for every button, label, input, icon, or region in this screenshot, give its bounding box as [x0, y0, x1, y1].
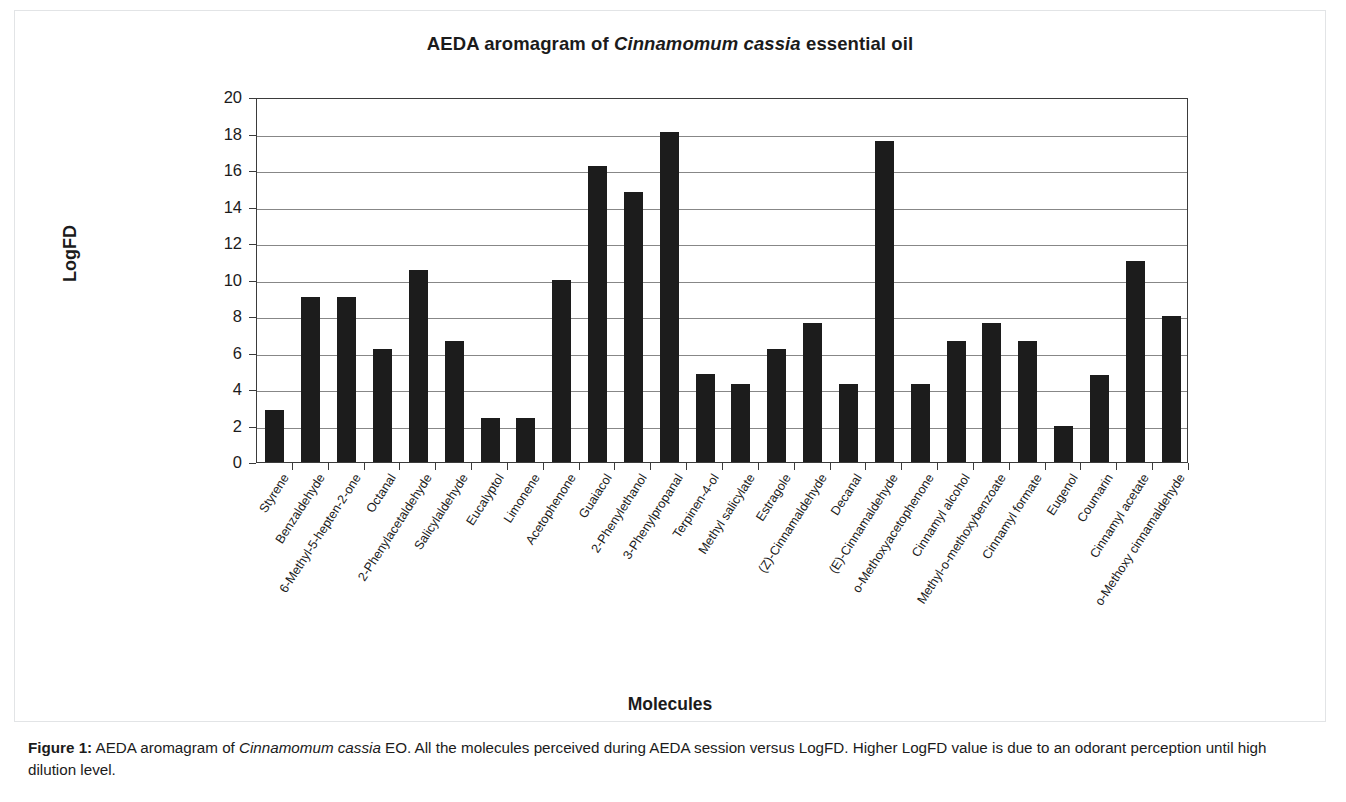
bar	[301, 297, 320, 462]
x-tick-mark	[435, 463, 436, 470]
x-tick-label: o-Methoxyacetophenone	[926, 472, 937, 479]
x-tick-mark	[579, 463, 580, 470]
bar	[552, 280, 571, 463]
x-tick-label: Cinnamyl formate	[1034, 472, 1045, 479]
y-tick-label: 18	[202, 126, 242, 143]
x-tick-mark	[1080, 463, 1081, 470]
x-tick-label: (Z)-Cinnamaldehyde	[819, 472, 830, 479]
x-tick-label: Coumarin	[1105, 472, 1116, 479]
bar	[445, 341, 464, 462]
x-tick-label: (E)-Cinnamaldehyde	[890, 472, 901, 479]
y-tick-mark	[249, 317, 256, 318]
bar	[911, 384, 930, 462]
plot-area	[256, 98, 1188, 463]
chart-title-post: essential oil	[801, 33, 913, 54]
bar	[265, 410, 284, 462]
x-tick-label: Decanal	[854, 472, 865, 479]
gridline	[257, 318, 1187, 319]
x-tick-label-text: Guaiacol	[576, 472, 614, 521]
y-tick-mark	[249, 427, 256, 428]
y-tick-mark	[249, 244, 256, 245]
bar	[1126, 261, 1145, 462]
x-tick-label-text: (Z)-Cinnamaldehyde	[756, 472, 830, 575]
x-tick-mark	[1152, 463, 1153, 470]
figure-frame: AEDA aromagram of Cinnamomum cassia esse…	[14, 10, 1326, 722]
bar	[803, 323, 822, 462]
x-tick-label: Salicylaldehyde	[460, 472, 471, 479]
chart-title: AEDA aromagram of Cinnamomum cassia esse…	[15, 33, 1325, 55]
x-tick-label-text: Decanal	[829, 472, 865, 518]
x-tick-label: Estragole	[783, 472, 794, 479]
bar	[731, 384, 750, 462]
x-tick-mark	[722, 463, 723, 470]
x-tick-mark	[830, 463, 831, 470]
x-tick-label-text: Octanal	[365, 472, 400, 516]
gridline	[257, 355, 1187, 356]
y-tick-mark	[249, 281, 256, 282]
x-tick-mark	[364, 463, 365, 470]
bar	[337, 297, 356, 462]
x-tick-mark	[1188, 463, 1189, 470]
x-tick-label: 2-Phenylethanol	[639, 472, 650, 479]
y-axis-title: LogFD	[60, 194, 81, 314]
y-tick-label: 4	[202, 381, 242, 398]
gridline	[257, 428, 1187, 429]
bar	[660, 132, 679, 462]
bar	[481, 418, 500, 462]
x-tick-label: Methyl-o-methoxybenzoate	[998, 472, 1009, 479]
x-tick-label: o-Methoxy cinnamaldehyde	[1177, 472, 1188, 479]
x-tick-mark	[794, 463, 795, 470]
x-tick-label-text: Styrene	[257, 472, 292, 516]
x-tick-mark	[614, 463, 615, 470]
bar	[1162, 316, 1181, 462]
x-tick-mark	[1116, 463, 1117, 470]
gridline	[257, 209, 1187, 210]
bar	[409, 270, 428, 462]
gridline	[257, 245, 1187, 246]
y-tick-label: 12	[202, 235, 242, 252]
x-tick-mark	[865, 463, 866, 470]
gridline	[257, 136, 1187, 137]
x-tick-label: Benzaldehyde	[317, 472, 328, 479]
x-tick-mark	[973, 463, 974, 470]
x-tick-label: Limonene	[532, 472, 543, 479]
x-tick-label: Octanal	[388, 472, 399, 479]
y-tick-label: 2	[202, 418, 242, 435]
x-tick-mark	[471, 463, 472, 470]
y-tick-mark	[249, 171, 256, 172]
chart-title-species: Cinnamomum cassia	[614, 33, 801, 54]
bar	[947, 341, 966, 462]
x-tick-label-text: Eucalyptol	[464, 472, 507, 528]
caption-label: Figure 1:	[28, 739, 92, 756]
x-tick-label: Eucalyptol	[496, 472, 507, 479]
x-tick-mark	[686, 463, 687, 470]
x-tick-label: Methyl salicylate	[747, 472, 758, 479]
y-tick-label: 20	[202, 89, 242, 106]
x-axis-title: Molecules	[15, 694, 1325, 715]
gridline	[257, 282, 1187, 283]
x-tick-mark	[937, 463, 938, 470]
x-tick-label: Eugenol	[1070, 472, 1081, 479]
bar	[516, 418, 535, 462]
gridline	[257, 172, 1187, 173]
y-tick-mark	[249, 354, 256, 355]
x-tick-label-text: Eugenol	[1044, 472, 1080, 518]
bar	[1090, 375, 1109, 462]
bar	[1054, 426, 1073, 462]
y-tick-label: 6	[202, 345, 242, 362]
y-tick-mark	[249, 463, 256, 464]
bar	[624, 192, 643, 462]
y-tick-label: 10	[202, 272, 242, 289]
bar	[875, 141, 894, 462]
y-tick-label: 8	[202, 308, 242, 325]
chart-title-pre: AEDA aromagram of	[427, 33, 614, 54]
y-tick-label: 16	[202, 162, 242, 179]
bar	[839, 384, 858, 462]
x-tick-mark	[543, 463, 544, 470]
y-tick-label: 14	[202, 199, 242, 216]
x-tick-label: Terpinen-4-ol	[711, 472, 722, 479]
y-tick-mark	[249, 208, 256, 209]
bar	[982, 323, 1001, 462]
y-tick-mark	[249, 390, 256, 391]
y-tick-label: 0	[202, 454, 242, 471]
